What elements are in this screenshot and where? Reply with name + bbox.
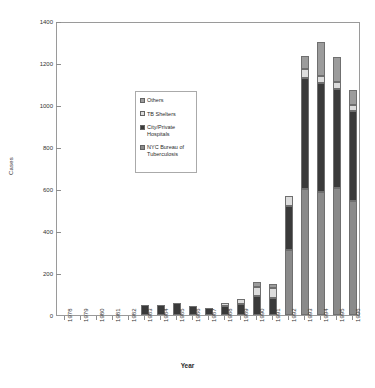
y-tick-label: 200 xyxy=(13,271,53,277)
x-tick-mark xyxy=(336,316,337,320)
x-tick-mark xyxy=(112,316,113,320)
bar-segment xyxy=(349,111,358,200)
bar-segment xyxy=(221,303,230,306)
bar-segment xyxy=(317,42,326,77)
bar-segment xyxy=(333,89,342,188)
y-tick-label: 1200 xyxy=(13,61,53,67)
bar-segment xyxy=(301,189,310,315)
x-tick-label: 1991 xyxy=(275,308,281,322)
bar-segment xyxy=(317,192,326,315)
x-tick-mark xyxy=(304,316,305,320)
x-tick-label: 1987 xyxy=(211,308,217,322)
y-tick-label: 1000 xyxy=(13,103,53,109)
bar-segment xyxy=(301,78,310,189)
x-tick-mark xyxy=(64,316,65,320)
legend-label: NYC Bureau of Tuberculosis xyxy=(147,144,196,157)
bar-segment xyxy=(269,284,278,288)
bar-stack xyxy=(285,196,294,315)
x-tick-label: 1981 xyxy=(115,308,121,322)
x-tick-mark xyxy=(80,316,81,320)
bar-segment xyxy=(333,188,342,315)
legend-label: TB Shelters xyxy=(147,111,176,118)
x-axis-title: Year xyxy=(0,362,375,369)
x-tick-label: 1993 xyxy=(307,308,313,322)
plot-area: OthersTB SheltersCity/Private HospitalsN… xyxy=(56,22,360,316)
x-tick-mark xyxy=(128,316,129,320)
legend-label: Others xyxy=(147,97,164,104)
x-tick-label: 1992 xyxy=(291,308,297,322)
x-tick-mark xyxy=(272,316,273,320)
y-tick-label: 1400 xyxy=(13,19,53,25)
bar-stack xyxy=(333,57,342,315)
x-tick-label: 1980 xyxy=(99,308,105,322)
legend-entry: TB Shelters xyxy=(140,111,196,118)
chart-legend: OthersTB SheltersCity/Private HospitalsN… xyxy=(135,91,197,173)
legend-swatch-icon xyxy=(140,98,145,103)
x-tick-mark xyxy=(256,316,257,320)
legend-label: City/Private Hospitals xyxy=(147,124,196,137)
x-tick-mark xyxy=(96,316,97,320)
y-tick-mark xyxy=(56,64,61,65)
y-tick-mark xyxy=(56,22,61,23)
bar-segment xyxy=(285,206,294,250)
bar-segment xyxy=(317,76,326,83)
bar-segment xyxy=(301,56,310,70)
bar-segment xyxy=(333,82,342,89)
bar-stack xyxy=(349,90,358,315)
x-tick-mark xyxy=(176,316,177,320)
x-tick-mark xyxy=(240,316,241,320)
bar-stack xyxy=(317,42,326,315)
bar-segment xyxy=(349,201,358,315)
bar-segment xyxy=(285,250,294,315)
x-tick-mark xyxy=(224,316,225,320)
x-tick-label: 1979 xyxy=(83,308,89,322)
bar-stack xyxy=(301,56,310,315)
x-tick-label: 1988 xyxy=(227,308,233,322)
x-tick-mark xyxy=(288,316,289,320)
y-tick-mark xyxy=(56,190,61,191)
bar-segment xyxy=(253,287,262,296)
bar-segment xyxy=(301,69,310,77)
tuberculosis-cases-stacked-bar-chart: Cases OthersTB SheltersCity/Private Hosp… xyxy=(0,0,375,388)
bar-segment xyxy=(317,83,326,192)
x-tick-label: 1989 xyxy=(243,308,249,322)
x-tick-label: 1983 xyxy=(147,308,153,322)
y-tick-label: 0 xyxy=(13,313,53,319)
x-tick-label: 1995 xyxy=(339,308,345,322)
x-tick-label: 1986 xyxy=(195,308,201,322)
x-tick-mark xyxy=(208,316,209,320)
x-tick-label: 1994 xyxy=(323,308,329,322)
legend-swatch-icon xyxy=(140,111,145,116)
legend-entry: NYC Bureau of Tuberculosis xyxy=(140,144,196,157)
x-tick-label: 1982 xyxy=(131,308,137,322)
legend-entry: City/Private Hospitals xyxy=(140,124,196,137)
x-tick-mark xyxy=(192,316,193,320)
x-tick-mark xyxy=(352,316,353,320)
y-tick-mark xyxy=(56,232,61,233)
bar-segment xyxy=(253,282,262,287)
bar-segment xyxy=(349,105,358,111)
x-tick-label: 1996 xyxy=(355,308,361,322)
legend-swatch-icon xyxy=(140,145,145,150)
bar-segment xyxy=(285,196,294,206)
bar-segment xyxy=(349,90,358,105)
y-tick-mark xyxy=(56,274,61,275)
legend-swatch-icon xyxy=(140,125,145,130)
x-tick-label: 1985 xyxy=(179,308,185,322)
y-tick-label: 800 xyxy=(13,145,53,151)
x-tick-label: 1984 xyxy=(163,308,169,322)
x-tick-mark xyxy=(320,316,321,320)
bar-segment xyxy=(333,57,342,82)
y-tick-mark xyxy=(56,106,61,107)
legend-entry: Others xyxy=(140,97,196,104)
y-tick-label: 400 xyxy=(13,229,53,235)
x-tick-mark xyxy=(144,316,145,320)
x-tick-label: 1990 xyxy=(259,308,265,322)
bar-segment xyxy=(269,288,278,298)
x-tick-label: 1978 xyxy=(67,308,73,322)
x-tick-mark xyxy=(160,316,161,320)
y-tick-label: 600 xyxy=(13,187,53,193)
bar-segment xyxy=(237,299,246,304)
y-tick-mark xyxy=(56,148,61,149)
